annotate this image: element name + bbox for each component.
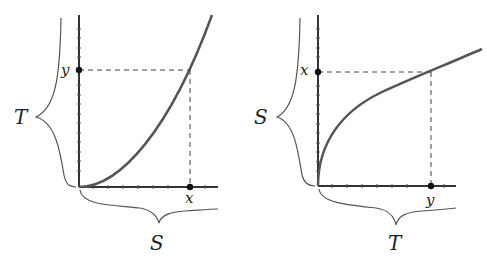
- right-y-marker-label: y: [425, 191, 435, 209]
- right-horizontal-brace: [319, 189, 456, 225]
- left-horizontal-brace: [80, 190, 218, 223]
- left-y-marker-dot: [76, 67, 82, 73]
- left-vertical-brace-label: T: [14, 105, 29, 129]
- left-x-marker-label: x: [185, 189, 194, 207]
- left-vertical-brace: [36, 18, 76, 187]
- right-x-marker-label: x: [300, 61, 309, 79]
- right-vertical-brace: [277, 18, 315, 186]
- right-vertical-brace-label: S: [254, 105, 268, 129]
- diagram-canvas: y x T S x y: [0, 0, 487, 262]
- left-horizontal-brace-label: S: [150, 231, 164, 255]
- left-y-marker-label: y: [60, 61, 70, 79]
- left-curve: [79, 15, 212, 187]
- right-horizontal-brace-label: T: [388, 231, 403, 255]
- right-x-marker-dot: [315, 69, 321, 75]
- right-panel: x y S T: [254, 15, 482, 255]
- left-panel: y x T S: [14, 15, 218, 255]
- right-y-marker-dot: [428, 183, 434, 189]
- right-curve: [318, 49, 482, 186]
